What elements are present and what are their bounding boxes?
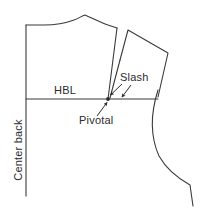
pivotal-label: Pivotal xyxy=(79,114,113,126)
center-back-label: Center back xyxy=(12,110,24,190)
slash-arrow-right-icon xyxy=(122,85,131,97)
pivot-point-marker xyxy=(106,97,110,101)
rotated-piece-outline xyxy=(120,30,168,97)
bodice-main-piece-outline xyxy=(26,15,117,28)
pattern-drawing xyxy=(0,0,203,211)
hbl-label: HBL xyxy=(54,84,76,96)
pattern-diagram-canvas: HBL Slash Pivotal Center back xyxy=(0,0,203,211)
slash-label: Slash xyxy=(120,71,149,83)
rotated-piece-slash-edge xyxy=(110,60,120,98)
side-seam-curve xyxy=(153,90,194,206)
